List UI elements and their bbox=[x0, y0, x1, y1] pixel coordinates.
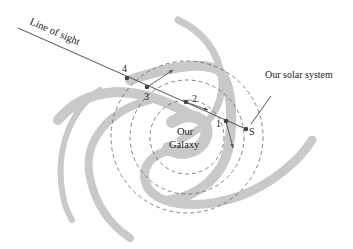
galaxy-label-line1: Our bbox=[177, 126, 194, 137]
solar-system-label: Our solar system bbox=[265, 69, 333, 80]
point-2-marker bbox=[184, 100, 189, 105]
point-4-marker bbox=[125, 76, 130, 81]
point-1-label: 1 bbox=[216, 118, 221, 129]
galaxy-label-line2: Galaxy bbox=[169, 139, 200, 150]
line-of-sight-label: Line of sight bbox=[28, 16, 82, 48]
solar-system-pointer bbox=[251, 96, 271, 124]
point-4-label: 4 bbox=[122, 63, 127, 74]
point-3-marker bbox=[145, 85, 150, 90]
point-s-marker bbox=[244, 127, 249, 132]
spiral-arm-left-outer bbox=[89, 100, 150, 238]
point-1-marker bbox=[224, 119, 229, 124]
galaxy-rotation-diagram: Line of sight 4 3 2 1 S Our solar system… bbox=[0, 0, 353, 249]
point-2-label: 2 bbox=[192, 93, 197, 104]
point-3-label: 3 bbox=[144, 91, 149, 102]
point-s-label: S bbox=[249, 126, 255, 137]
